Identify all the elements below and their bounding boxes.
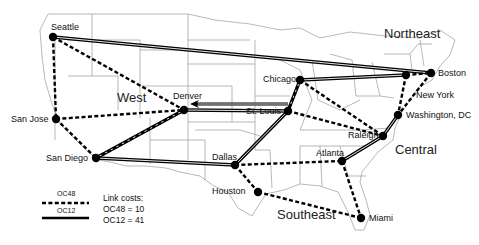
city-label-miami: Miami (369, 213, 393, 223)
node-boston[interactable] (427, 69, 435, 77)
node-dallas[interactable] (231, 161, 239, 169)
city-label-dallas: Dallas (212, 152, 237, 162)
city-label-houston: Houston (212, 186, 246, 196)
node-newyork[interactable] (402, 71, 410, 79)
legend-oc12-cost: OC12 = 41 (103, 215, 144, 226)
city-label-raleigh: Raleigh (348, 130, 379, 140)
city-label-seattle: Seattle (51, 22, 79, 32)
region-label-west: West (117, 90, 146, 105)
oc12-link-chicago-newyork (300, 75, 406, 80)
region-label-central: Central (395, 142, 437, 157)
city-label-boston: Boston (438, 68, 466, 78)
region-label-southeast: Southeast (277, 207, 336, 222)
legend-oc48-label: OC48 (57, 190, 75, 197)
node-sandiego[interactable] (92, 154, 100, 162)
oc12-links (53, 37, 431, 165)
oc48-link-dallas-atlanta (235, 161, 342, 165)
node-raleigh[interactable] (379, 132, 387, 140)
node-washington[interactable] (394, 111, 402, 119)
legend-costs-title: Link costs: (103, 193, 143, 204)
city-label-sandiego: San Diego (46, 153, 88, 163)
node-chicago[interactable] (296, 76, 304, 84)
legend-oc12-label: OC12 (57, 207, 75, 214)
node-seattle[interactable] (49, 33, 57, 41)
city-label-denver: Denver (173, 91, 202, 101)
oc12-link-dallas-stlouis (235, 111, 288, 165)
node-sanjose[interactable] (52, 115, 60, 123)
node-houston[interactable] (254, 188, 262, 196)
oc48-link-atlanta-miami (342, 161, 361, 218)
city-label-washington: Washington, DC (406, 110, 471, 120)
oc48-link-chicago-raleigh (300, 80, 383, 136)
city-label-stlouis: St. Louis (246, 106, 281, 116)
node-denver[interactable] (180, 106, 188, 114)
city-label-newyork: New York (416, 90, 454, 100)
city-label-chicago: Chicago (263, 74, 296, 84)
node-miami[interactable] (357, 214, 365, 222)
city-label-atlanta: Atlanta (316, 148, 344, 158)
node-atlanta[interactable] (338, 157, 346, 165)
oc48-link-sanjose-denver (56, 110, 184, 119)
city-label-sanjose: San Jose (11, 114, 49, 124)
region-label-northeast: Northeast (384, 26, 440, 41)
node-stlouis[interactable] (284, 107, 292, 115)
legend-oc48-cost: OC48 = 10 (103, 204, 144, 215)
